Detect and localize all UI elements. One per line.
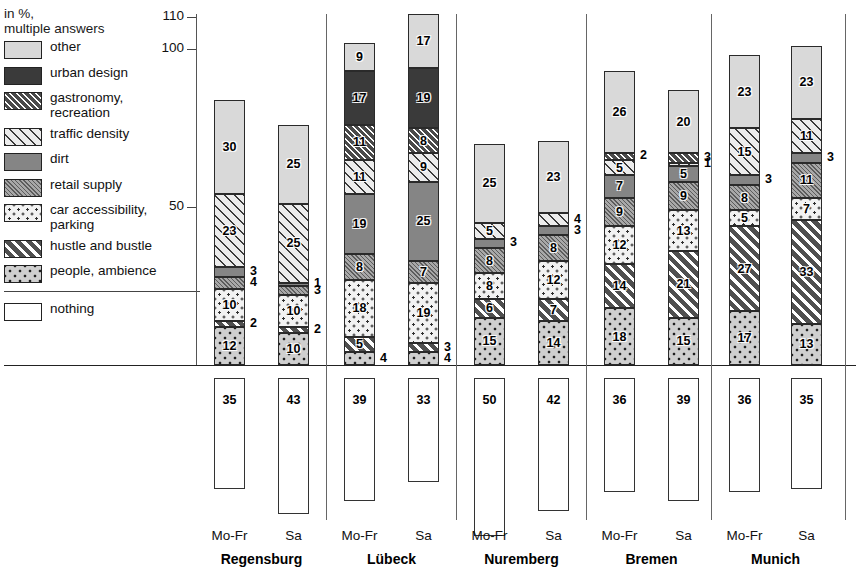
segment-value-label: 17 <box>417 34 431 48</box>
x-axis-label-sa: Sa <box>527 528 580 543</box>
x-axis-label-mofr: Mo-Fr <box>203 528 256 543</box>
x-axis-label-sa: Sa <box>267 528 320 543</box>
segment-value-label: 13 <box>800 337 814 351</box>
bar-segment-retail: 9 <box>604 198 635 226</box>
nothing-bar: 35 <box>214 378 245 489</box>
x-axis-label-sa: Sa <box>780 528 833 543</box>
bar-segment-retail <box>214 277 245 290</box>
bar-segment-people: 12 <box>214 327 245 365</box>
bar-segment-people: 15 <box>668 318 699 365</box>
legend-swatch-hustle-icon <box>4 240 42 258</box>
nothing-bar: 39 <box>668 378 699 501</box>
bar-segment-traffic: 5 <box>604 160 635 176</box>
legend-swatch-traffic-icon <box>4 128 42 146</box>
y-tick-label: 100 <box>146 40 184 55</box>
group-label: Regensburg <box>192 551 332 567</box>
segment-value-label: 7 <box>616 179 623 193</box>
bar-segment-traffic: 9 <box>408 153 439 181</box>
legend-swatch-urban-icon <box>4 67 42 85</box>
bar-segment-people: 13 <box>791 324 822 365</box>
bar-segment-dirt <box>538 226 569 235</box>
baseline-zero-left <box>4 365 196 366</box>
bar-segment-retail <box>278 286 309 295</box>
bar-segment-people: 17 <box>729 311 760 365</box>
segment-value-label: 26 <box>613 105 627 119</box>
bar-segment-people: 10 <box>278 333 309 365</box>
bar-segment-other: 25 <box>278 125 309 204</box>
bar-segment-gastro: 8 <box>408 128 439 153</box>
segment-value-label: 15 <box>483 334 497 348</box>
legend-swatch-retail-icon <box>4 179 42 197</box>
segment-value-label: 9 <box>420 160 427 174</box>
segment-value-label: 17 <box>738 331 752 345</box>
y-tick-label: 110 <box>146 8 184 23</box>
bar-segment-other: 23 <box>538 141 569 214</box>
segment-value-label: 23 <box>547 170 561 184</box>
bar-segment-other: 23 <box>791 46 822 119</box>
segment-value-label-outside: 3 <box>444 340 451 354</box>
group-separator <box>586 14 587 520</box>
legend-item-retail: retail supply <box>4 178 194 197</box>
segment-value-label: 5 <box>486 224 493 238</box>
bar-segment-hustle: 6 <box>474 299 505 318</box>
segment-value-label-outside: 4 <box>574 212 581 226</box>
legend-swatch-car-icon <box>4 204 42 222</box>
segment-value-label: 5 <box>680 167 687 181</box>
bar-segment-car: 19 <box>408 283 439 343</box>
nothing-value-label: 42 <box>547 393 561 407</box>
bar-segment-dirt <box>474 239 505 248</box>
bar-segment-traffic: 11 <box>791 119 822 154</box>
bar-segment-traffic: 23 <box>214 194 245 267</box>
bar-segment-car: 7 <box>791 198 822 220</box>
legend-swatch-gastro-icon <box>4 92 42 110</box>
bar-segment-dirt <box>791 153 822 162</box>
legend-swatch-other-icon <box>4 41 42 59</box>
nothing-value-label: 35 <box>223 393 237 407</box>
y-tick <box>187 207 196 208</box>
bar-segment-people: 15 <box>474 318 505 365</box>
segment-value-label: 23 <box>800 75 814 89</box>
segment-value-label: 8 <box>741 191 748 205</box>
segment-value-label: 23 <box>738 85 752 99</box>
nothing-value-label: 39 <box>677 393 691 407</box>
segment-value-label: 9 <box>356 50 363 64</box>
bar-segment-hustle <box>214 321 245 327</box>
legend-divider <box>4 291 200 292</box>
bar-segment-other: 23 <box>729 55 760 128</box>
segment-value-label-outside: 4 <box>380 351 387 365</box>
segment-value-label: 11 <box>353 135 366 149</box>
legend-item-label: other <box>50 40 81 55</box>
bar-segment-dirt: 25 <box>408 182 439 261</box>
bar-segment-hustle <box>278 327 309 333</box>
segment-value-label: 9 <box>680 189 687 203</box>
segment-value-label: 19 <box>353 217 367 231</box>
bar-segment-retail: 8 <box>474 248 505 273</box>
segment-value-label: 8 <box>486 279 493 293</box>
segment-value-label: 8 <box>486 254 493 268</box>
legend-item-hustle: hustle and bustle <box>4 239 194 258</box>
bar-segment-car: 18 <box>344 280 375 337</box>
segment-value-label: 11 <box>800 173 813 187</box>
segment-value-label: 14 <box>547 336 561 350</box>
group-label: Nuremberg <box>452 551 592 567</box>
x-axis-label-mofr: Mo-Fr <box>718 528 771 543</box>
segment-value-label: 10 <box>223 298 237 312</box>
bar-segment-gastro <box>604 153 635 159</box>
segment-value-label: 11 <box>800 129 813 143</box>
segment-value-label-outside: 3 <box>250 264 257 278</box>
x-axis-label-mofr: Mo-Fr <box>463 528 516 543</box>
segment-value-label-outside: 1 <box>314 276 321 290</box>
legend-item-urban: urban design <box>4 66 194 85</box>
nothing-bar: 35 <box>791 378 822 489</box>
y-tick <box>187 49 196 50</box>
group-label: Lübeck <box>322 551 462 567</box>
bar-segment-retail: 7 <box>408 261 439 283</box>
bar-segment-urban: 19 <box>408 68 439 128</box>
nothing-bar: 39 <box>344 378 375 501</box>
nothing-value-label: 35 <box>800 393 814 407</box>
x-axis-label-sa: Sa <box>397 528 450 543</box>
segment-value-label: 5 <box>741 211 748 225</box>
bar-segment-hustle: 27 <box>729 226 760 311</box>
bar-segment-traffic <box>668 163 699 166</box>
bar-segment-gastro <box>668 153 699 162</box>
